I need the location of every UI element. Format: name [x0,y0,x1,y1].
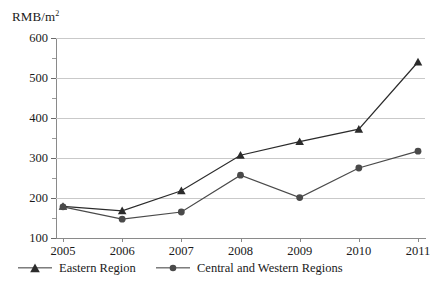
x-axis-label: 2007 [169,244,194,259]
y-axis-label: 500 [29,71,48,86]
series-line-central-and-western-regions [63,151,418,219]
y-axis-label: 600 [29,31,48,46]
y-axis-tick [51,238,56,239]
y-axis-label: 100 [29,231,48,246]
x-axis-label: 2010 [346,244,371,259]
legend-item-eastern-region: Eastern Region [18,259,136,277]
legend-marker-circle-icon [156,261,190,275]
legend-label-central-western-regions: Central and Western Regions [197,261,343,276]
x-axis-label: 2006 [110,244,135,259]
line-chart: RMB/m2 600500400300200100 20052006200720… [0,0,439,287]
x-axis-tick [181,238,182,242]
legend-item-central-western-regions: Central and Western Regions [156,259,343,277]
data-point [237,172,244,179]
data-point [414,58,423,66]
y-axis-title-text: RMB/m [12,9,55,24]
plot-area: 600500400300200100 200520062007200820092… [56,38,425,238]
x-axis-label: 2008 [228,244,253,259]
data-point [178,209,185,216]
data-series-layer [56,38,425,238]
x-axis-tick [300,238,301,242]
series-line-eastern-region [63,62,418,211]
data-point [60,203,67,210]
x-axis-tick [63,238,64,242]
data-point [177,187,186,195]
x-axis-label: 2009 [287,244,312,259]
x-axis-tick [418,238,419,242]
data-point [296,194,303,201]
data-point [415,148,422,155]
legend-label-eastern-region: Eastern Region [59,261,136,276]
x-axis-label: 2011 [406,244,431,259]
y-axis-label: 200 [29,191,48,206]
y-axis-label: 300 [29,151,48,166]
data-point [355,165,362,172]
x-axis-tick [359,238,360,242]
legend-marker-triangle-icon [18,261,52,275]
x-axis-tick [241,238,242,242]
x-axis-tick [122,238,123,242]
chart-legend: Eastern Region Central and Western Regio… [18,259,428,277]
y-axis-title-superscript: 2 [55,9,59,18]
data-point [119,216,126,223]
y-axis-label: 400 [29,111,48,126]
y-axis-title: RMB/m2 [12,9,59,25]
x-axis-label: 2005 [51,244,76,259]
